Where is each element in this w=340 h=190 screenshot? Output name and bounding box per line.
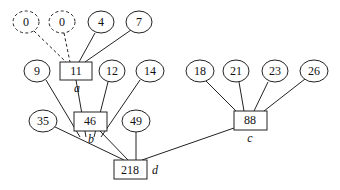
node-a: 11 a	[60, 62, 92, 95]
edge-dummy0a-a	[34, 31, 66, 62]
leaf-label: 18	[194, 64, 206, 78]
huffman-tree-diagram: 0 0 4 7 9 11 a 12 14 18 21 23	[0, 0, 340, 190]
edge-21-c	[239, 82, 244, 111]
leaf-12: 12	[99, 60, 125, 82]
node-value: 46	[84, 114, 96, 128]
edge-18-c	[206, 81, 236, 111]
leaf-label: 35	[37, 114, 49, 128]
node-tag: b	[88, 132, 94, 146]
leaf-7: 7	[126, 11, 152, 33]
edge-7-a	[85, 30, 131, 62]
node-value: 11	[70, 64, 82, 78]
node-d-root: 218 d	[114, 160, 159, 179]
leaf-9: 9	[24, 60, 50, 82]
leaf-49: 49	[122, 110, 150, 132]
leaf-label: 14	[144, 64, 156, 78]
leaf-18: 18	[186, 60, 214, 82]
node-c: 88 c	[234, 111, 267, 145]
leaf-dummy-0a: 0	[13, 11, 39, 33]
leaf-35: 35	[29, 110, 57, 132]
leaf-label: 9	[34, 64, 40, 78]
leaf-4: 4	[88, 11, 114, 33]
edge-26-c	[264, 79, 305, 111]
leaf-label: 49	[130, 114, 142, 128]
node-b: 46 b	[74, 112, 107, 146]
edge-dummy0b-a	[64, 33, 70, 62]
edge-4-a	[79, 33, 95, 62]
leaf-label: 4	[98, 15, 104, 29]
leaf-dummy-0b: 0	[49, 11, 75, 33]
leaf-label: 23	[269, 64, 281, 78]
leaf-label: 21	[230, 64, 242, 78]
leaf-23: 23	[262, 60, 288, 82]
node-value: 88	[244, 113, 256, 127]
leaf-label: 0	[59, 15, 65, 29]
leaf-21: 21	[223, 60, 249, 82]
leaf-label: 0	[23, 15, 29, 29]
node-value: 218	[121, 163, 139, 177]
edge-c-d	[142, 128, 234, 160]
node-tag: d	[152, 163, 159, 177]
node-tag: c	[247, 131, 253, 145]
node-tag: a	[74, 81, 80, 95]
edge-23-c	[254, 82, 268, 111]
leaf-label: 12	[106, 64, 118, 78]
leaf-26: 26	[300, 60, 328, 82]
leaf-label: 26	[308, 64, 320, 78]
edges	[34, 30, 305, 160]
leaf-label: 7	[136, 15, 142, 29]
leaf-14: 14	[136, 60, 164, 82]
